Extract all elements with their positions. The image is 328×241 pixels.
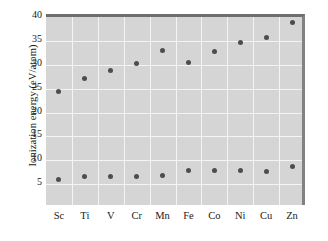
data-point [212,168,217,173]
x-axis-tick-labels: ScTiVCrMnFeCoNiCuZn [46,210,305,230]
gridline-horizontal [46,89,302,90]
data-point [238,168,243,173]
gridline-horizontal [46,160,302,161]
y-tick-label: 20 [2,104,42,115]
gridline-horizontal [46,184,302,185]
y-tick-label: 5 [2,176,42,187]
gridline-horizontal [46,41,302,42]
plot-area [46,14,305,205]
data-point [264,35,269,40]
data-point [134,174,139,179]
data-point [264,169,269,174]
data-point [82,76,87,81]
data-point [56,177,61,182]
gridline-horizontal [46,113,302,114]
y-tick-label: 35 [2,32,42,43]
data-point [160,173,165,178]
data-point [56,89,61,94]
y-tick-label: 30 [2,56,42,67]
y-tick-label: 10 [2,152,42,163]
gridline-vertical [98,17,99,205]
gridline-vertical [72,17,73,205]
gridline-vertical [201,17,202,205]
gridline-vertical [124,17,125,205]
gridline-vertical [279,17,280,205]
gridline-vertical [227,17,228,205]
data-point [238,40,243,45]
y-tick-label: 15 [2,128,42,139]
gridline-horizontal [46,65,302,66]
y-axis-tick-labels: 510152025303540 [0,14,42,205]
ionization-energy-chart: Ionization energy (eV/atom) 510152025303… [0,0,328,241]
data-point [108,174,113,179]
gridline-horizontal [46,136,302,137]
gridline-vertical [176,17,177,205]
data-point [212,49,217,54]
data-point [108,68,113,73]
y-tick-label: 40 [2,9,42,20]
data-point [186,168,191,173]
data-point [290,20,295,25]
data-point [290,164,295,169]
y-tick-label: 25 [2,80,42,91]
gridline-vertical [150,17,151,205]
x-tick-label: Zn [272,210,312,221]
gridline-vertical [253,17,254,205]
data-point [82,174,87,179]
data-point [134,61,139,66]
data-point [160,48,165,53]
plot-inner [46,17,302,205]
